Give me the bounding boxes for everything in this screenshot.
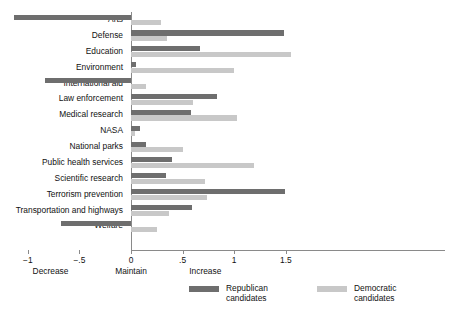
bar-democratic (131, 20, 161, 25)
bar-democratic (131, 227, 157, 232)
bar-democratic (131, 147, 183, 152)
legend-entry[interactable]: Democratic candidates (317, 283, 396, 303)
bar-republican (131, 94, 217, 99)
category-label: Law enforcement (59, 94, 123, 103)
chart-row (131, 75, 445, 91)
bar-republican (131, 126, 140, 131)
legend-swatch (317, 286, 347, 292)
chart-row (131, 60, 445, 76)
bar-republican (131, 205, 192, 210)
chart-row (131, 123, 445, 139)
chart-row (131, 202, 445, 218)
legend-swatch (189, 286, 219, 292)
bar-democratic (131, 195, 207, 200)
plot-area: −1−.50.511.5 DecreaseMaintainIncrease (131, 12, 445, 250)
bar-democratic (131, 100, 193, 105)
chart-row (131, 139, 445, 155)
x-tick-mark (28, 250, 29, 254)
category-label: Terrorism prevention (47, 190, 123, 199)
chart-row (131, 44, 445, 60)
bar-republican (131, 62, 136, 67)
x-tick-label: −1 (23, 255, 33, 265)
bar-republican (131, 157, 172, 162)
x-tick-mark (286, 250, 287, 254)
bar-democratic (131, 36, 167, 41)
x-tick-label: .5 (179, 255, 186, 265)
bar-chart: ArtsDefenseEducationEnvironmentInternati… (0, 0, 449, 321)
x-tick-label: 0 (129, 255, 134, 265)
bar-republican (131, 189, 285, 194)
category-label: Medical research (59, 110, 123, 119)
bar-republican (14, 15, 131, 20)
bar-republican (131, 173, 166, 178)
bar-democratic (131, 84, 146, 89)
category-label: Public health services (42, 158, 123, 167)
category-label: Defense (92, 31, 123, 40)
category-axis-labels: ArtsDefenseEducationEnvironmentInternati… (0, 12, 127, 250)
bar-democratic (131, 131, 135, 136)
chart-row (131, 187, 445, 203)
bar-democratic (131, 115, 237, 120)
bar-democratic (131, 211, 169, 216)
chart-row (131, 12, 445, 28)
bar-republican (131, 30, 284, 35)
bar-democratic (131, 52, 291, 57)
x-tick-label: 1.5 (280, 255, 292, 265)
chart-row (131, 171, 445, 187)
chart-row (131, 218, 445, 234)
x-tick-label: 1 (232, 255, 237, 265)
x-anchor-label: Maintain (115, 266, 147, 276)
x-anchor-label: Decrease (33, 266, 69, 276)
legend-label: Republican candidates (226, 283, 268, 303)
bar-republican (131, 46, 200, 51)
chart-legend: Republican candidatesDemocratic candidat… (131, 283, 445, 309)
category-label: Education (86, 47, 123, 56)
chart-row (131, 91, 445, 107)
x-axis-spine (131, 250, 445, 251)
category-label: Transportation and highways (16, 206, 123, 215)
bar-republican (45, 78, 131, 83)
x-tick-mark (183, 250, 184, 254)
legend-entry[interactable]: Republican candidates (189, 283, 268, 303)
chart-row (131, 28, 445, 44)
x-tick-label: −.5 (73, 255, 85, 265)
bar-republican (131, 110, 191, 115)
bar-democratic (131, 179, 205, 184)
category-label: Environment (76, 63, 123, 72)
x-tick-mark (79, 250, 80, 254)
bar-democratic (131, 68, 234, 73)
bar-republican (61, 221, 131, 226)
category-label: National parks (69, 142, 123, 151)
category-label: NASA (100, 126, 123, 135)
bar-republican (131, 142, 146, 147)
chart-row (131, 155, 445, 171)
x-tick-mark (131, 250, 132, 254)
x-anchor-label: Increase (189, 266, 221, 276)
legend-label: Democratic candidates (354, 283, 396, 303)
x-tick-mark (234, 250, 235, 254)
chart-row (131, 107, 445, 123)
category-label: Scientific research (55, 174, 123, 183)
bar-democratic (131, 163, 254, 168)
